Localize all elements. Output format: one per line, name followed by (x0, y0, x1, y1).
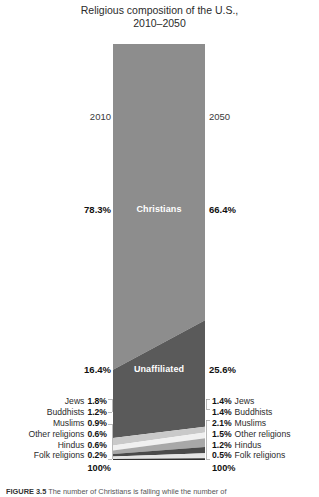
christians-2050-percent: 66.4% (209, 204, 249, 215)
minority-label: Jews (235, 396, 255, 406)
minority-label: Muslims (235, 418, 267, 428)
minority-label: Hindus (235, 440, 262, 450)
band-label-unaffiliated: Unaffiliated (113, 364, 205, 374)
figure-title-line1: Religious composition of the U.S., (0, 4, 319, 17)
minority-label: Buddhists (235, 407, 273, 417)
figure-caption-text: The number of Christians is falling whil… (48, 487, 226, 496)
minority-row: 1.2%Hindus (212, 440, 319, 451)
minority-row: Jews1.8% (0, 396, 107, 407)
minority-row: 1.4%Jews (212, 396, 319, 407)
minority-value: 1.2% (87, 407, 107, 417)
minority-label: Other religions (29, 429, 85, 439)
minority-label: Folk religions (34, 450, 85, 460)
minority-row: 0.5%Folk religions (212, 450, 319, 461)
minority-value: 1.4% (212, 407, 232, 417)
minority-label: Jews (65, 396, 85, 406)
minority-value: 2.1% (212, 418, 232, 428)
minority-label: Muslims (53, 418, 85, 428)
minority-label: Hindus (58, 440, 85, 450)
religious-composition-figure: Religious composition of the U.S., 2010–… (0, 0, 319, 497)
minority-row: Hindus0.6% (0, 440, 107, 451)
minority-row: 1.5%Other religions (212, 429, 319, 440)
minority-value: 0.9% (87, 418, 107, 428)
minority-label: Folk religions (235, 450, 286, 460)
minority-row: 2.1%Muslims (212, 418, 319, 429)
figure-title: Religious composition of the U.S., 2010–… (0, 4, 319, 30)
figure-caption-number: FIGURE 3.5 (6, 487, 46, 496)
minority-value: 1.8% (87, 396, 107, 406)
unaffiliated-2010-percent: 16.4% (78, 364, 111, 375)
minority-row: Muslims0.9% (0, 418, 107, 429)
band-label-christians: Christians (113, 204, 205, 214)
minority-value: 1.2% (212, 440, 232, 450)
minority-value: 1.5% (212, 429, 232, 439)
minority-row: Buddhists1.2% (0, 407, 107, 418)
minority-list-2010: Jews1.8%Buddhists1.2%Muslims0.9%Other re… (0, 396, 107, 461)
stacked-area-plot (113, 44, 205, 460)
minority-row: 1.4%Buddhists (212, 407, 319, 418)
total-2050: 100% (212, 463, 262, 473)
minority-label: Other religions (235, 429, 291, 439)
minority-value: 1.4% (212, 396, 232, 406)
minority-list-2050: 1.4%Jews1.4%Buddhists2.1%Muslims1.5%Othe… (212, 396, 319, 461)
minority-value: 0.6% (87, 440, 107, 450)
stacked-area-svg (113, 44, 205, 460)
figure-title-line2: 2010–2050 (0, 17, 319, 30)
minority-row: Folk religions0.2% (0, 450, 107, 461)
minority-value: 0.6% (87, 429, 107, 439)
minority-label: Buddhists (47, 407, 85, 417)
total-2010: 100% (60, 463, 111, 473)
year-label-2050: 2050 (209, 111, 249, 122)
year-label-2010: 2010 (74, 111, 111, 122)
christians-2010-percent: 78.3% (78, 204, 111, 215)
minority-value: 0.2% (87, 450, 107, 460)
figure-caption: FIGURE 3.5 The number of Christians is f… (6, 487, 319, 496)
minority-value: 0.5% (212, 450, 232, 460)
minority-row: Other religions0.6% (0, 429, 107, 440)
unaffiliated-2050-percent: 25.6% (209, 364, 249, 375)
